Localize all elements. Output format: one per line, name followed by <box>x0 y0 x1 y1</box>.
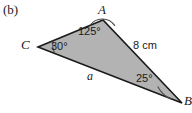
side-label-cb: a <box>87 70 93 82</box>
vertex-label-b: B <box>184 94 192 107</box>
side-label-ab: 8 cm <box>133 40 157 51</box>
vertex-label-a: A <box>98 3 106 16</box>
vertex-label-c: C <box>21 38 30 51</box>
angle-label-b: 25° <box>136 73 153 84</box>
angle-label-c: 30° <box>51 41 68 52</box>
part-label: (b) <box>3 3 18 16</box>
geometry-figure: (b) A C B 30° 125° 25° 8 cm a <box>0 0 192 113</box>
triangle-svg <box>0 0 192 113</box>
angle-label-a: 125° <box>78 26 101 37</box>
